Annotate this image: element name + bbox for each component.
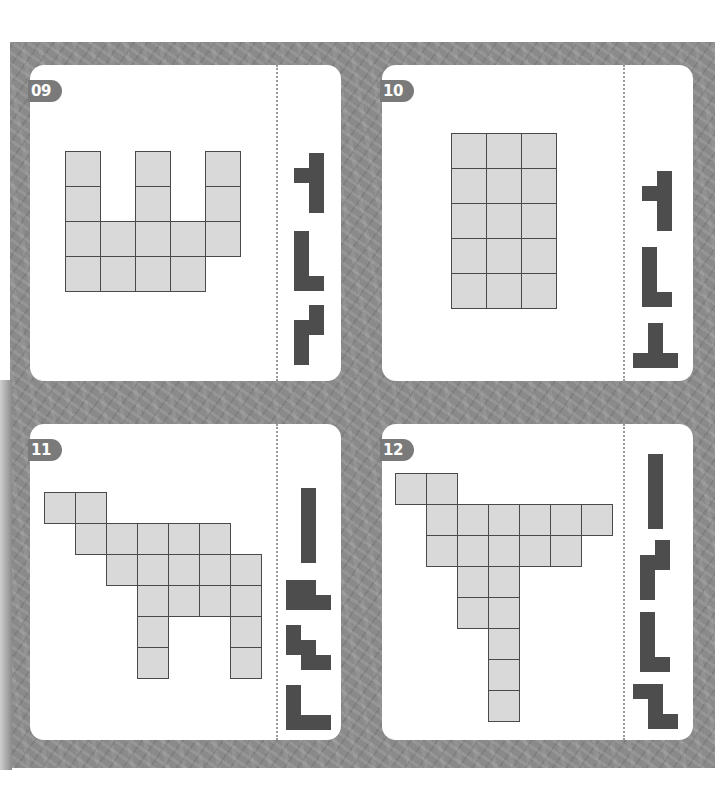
piece-square bbox=[301, 640, 316, 655]
board-cell[interactable] bbox=[550, 504, 582, 536]
board-cell[interactable] bbox=[451, 273, 487, 309]
board-cell[interactable] bbox=[199, 523, 231, 555]
board-cell[interactable] bbox=[426, 504, 458, 536]
board-cell[interactable] bbox=[457, 504, 489, 536]
board-cell[interactable] bbox=[395, 473, 427, 505]
board-cell[interactable] bbox=[168, 585, 200, 617]
board-cell[interactable] bbox=[581, 504, 613, 536]
piece-square bbox=[648, 353, 663, 368]
dotted-divider bbox=[276, 65, 278, 381]
piece-square bbox=[301, 580, 316, 595]
puzzle-card-12: 12 bbox=[382, 424, 693, 740]
board-cell[interactable] bbox=[230, 647, 262, 679]
board-cell[interactable] bbox=[519, 504, 551, 536]
page-edge-shadow bbox=[0, 380, 12, 770]
board-cell[interactable] bbox=[137, 523, 169, 555]
board-cell[interactable] bbox=[426, 535, 458, 567]
board-cell[interactable] bbox=[170, 221, 206, 257]
piece-square bbox=[286, 580, 301, 595]
piece-square bbox=[633, 353, 648, 368]
board-cell[interactable] bbox=[426, 473, 458, 505]
board-cell[interactable] bbox=[137, 616, 169, 648]
board-cell[interactable] bbox=[488, 566, 520, 598]
board-cell[interactable] bbox=[486, 203, 522, 239]
board-cell[interactable] bbox=[457, 535, 489, 567]
board-cell[interactable] bbox=[486, 273, 522, 309]
board-cell[interactable] bbox=[65, 221, 101, 257]
board-cell[interactable] bbox=[137, 647, 169, 679]
piece-square bbox=[309, 276, 324, 291]
board-cell[interactable] bbox=[457, 566, 489, 598]
board-cell[interactable] bbox=[519, 535, 551, 567]
puzzle-card-09: 09 bbox=[30, 65, 341, 381]
board-cell[interactable] bbox=[521, 133, 557, 169]
piece-square bbox=[657, 292, 672, 307]
piece-square bbox=[655, 657, 670, 672]
board-cell[interactable] bbox=[199, 585, 231, 617]
piece-square bbox=[648, 699, 663, 714]
board-cell[interactable] bbox=[486, 168, 522, 204]
piece-square bbox=[294, 261, 309, 276]
board-cell[interactable] bbox=[205, 186, 241, 222]
board-cell[interactable] bbox=[135, 151, 171, 187]
board-cell[interactable] bbox=[486, 133, 522, 169]
piece-square bbox=[640, 612, 655, 627]
board-cell[interactable] bbox=[521, 203, 557, 239]
board-cell[interactable] bbox=[451, 238, 487, 274]
board-cell[interactable] bbox=[135, 186, 171, 222]
board-cell[interactable] bbox=[488, 690, 520, 722]
board-cell[interactable] bbox=[137, 585, 169, 617]
piece-square bbox=[301, 488, 316, 503]
board-cell[interactable] bbox=[488, 597, 520, 629]
board-cell[interactable] bbox=[457, 597, 489, 629]
dotted-divider bbox=[623, 424, 625, 740]
board-cell[interactable] bbox=[488, 535, 520, 567]
board-cell[interactable] bbox=[65, 256, 101, 292]
board-cell[interactable] bbox=[75, 523, 107, 555]
board-cell[interactable] bbox=[230, 616, 262, 648]
board-cell[interactable] bbox=[550, 535, 582, 567]
piece-square bbox=[648, 714, 663, 729]
board-cell[interactable] bbox=[521, 238, 557, 274]
piece-square bbox=[301, 503, 316, 518]
piece-square bbox=[286, 625, 301, 640]
board-cell[interactable] bbox=[205, 151, 241, 187]
board-cell[interactable] bbox=[451, 203, 487, 239]
piece-square bbox=[648, 514, 663, 529]
board-cell[interactable] bbox=[106, 554, 138, 586]
board-cell[interactable] bbox=[168, 523, 200, 555]
board-cell[interactable] bbox=[137, 554, 169, 586]
puzzle-number-badge: 10 bbox=[380, 80, 414, 102]
piece-square bbox=[648, 499, 663, 514]
board-cell[interactable] bbox=[135, 256, 171, 292]
board-cell[interactable] bbox=[168, 554, 200, 586]
board-cell[interactable] bbox=[488, 628, 520, 660]
board-cell[interactable] bbox=[230, 554, 262, 586]
board-cell[interactable] bbox=[488, 659, 520, 691]
piece-square bbox=[642, 262, 657, 277]
board-cell[interactable] bbox=[65, 186, 101, 222]
piece-square bbox=[663, 714, 678, 729]
piece-square bbox=[663, 353, 678, 368]
board-cell[interactable] bbox=[106, 523, 138, 555]
board-cell[interactable] bbox=[205, 221, 241, 257]
board-cell[interactable] bbox=[451, 133, 487, 169]
board-cell[interactable] bbox=[488, 504, 520, 536]
puzzle-card-11: 11 bbox=[30, 424, 341, 740]
board-cell[interactable] bbox=[65, 151, 101, 187]
piece-square bbox=[657, 171, 672, 186]
board-cell[interactable] bbox=[521, 273, 557, 309]
board-cell[interactable] bbox=[44, 492, 76, 524]
piece-square bbox=[642, 292, 657, 307]
board-cell[interactable] bbox=[521, 168, 557, 204]
board-cell[interactable] bbox=[100, 221, 136, 257]
board-cell[interactable] bbox=[75, 492, 107, 524]
board-cell[interactable] bbox=[170, 256, 206, 292]
board-cell[interactable] bbox=[486, 238, 522, 274]
board-cell[interactable] bbox=[100, 256, 136, 292]
board-cell[interactable] bbox=[135, 221, 171, 257]
piece-square bbox=[301, 655, 316, 670]
board-cell[interactable] bbox=[230, 585, 262, 617]
board-cell[interactable] bbox=[199, 554, 231, 586]
board-cell[interactable] bbox=[451, 168, 487, 204]
